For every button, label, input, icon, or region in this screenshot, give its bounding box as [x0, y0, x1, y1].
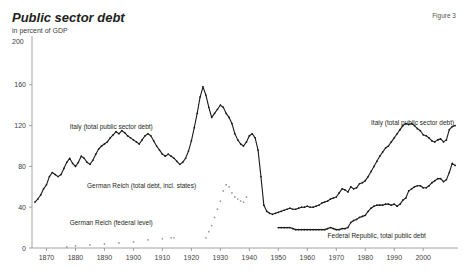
data-point — [327, 200, 329, 202]
data-point — [138, 143, 140, 145]
data-point — [89, 164, 91, 166]
data-point — [283, 227, 285, 229]
data-point — [214, 113, 216, 115]
data-point — [301, 229, 303, 231]
data-point — [411, 188, 413, 190]
data-point — [75, 166, 77, 168]
data-point — [367, 210, 369, 212]
data-point — [454, 125, 456, 127]
data-point — [182, 161, 184, 163]
data-point — [292, 228, 294, 230]
data-point — [130, 137, 132, 139]
data-point — [298, 207, 300, 209]
data-point — [356, 187, 358, 189]
data-point — [222, 190, 224, 192]
data-point — [217, 108, 219, 110]
data-point — [443, 141, 445, 143]
data-point — [396, 133, 398, 135]
data-point — [275, 212, 277, 214]
data-point — [367, 176, 369, 178]
data-point — [390, 141, 392, 143]
data-point — [222, 106, 224, 108]
data-point — [60, 174, 62, 176]
data-point — [34, 201, 36, 203]
data-point — [167, 153, 169, 155]
data-point — [269, 212, 271, 214]
series-1 — [205, 184, 247, 239]
x-tick-label: 1900 — [126, 254, 142, 261]
data-point — [254, 137, 256, 139]
data-point — [417, 128, 419, 130]
data-point — [324, 229, 326, 231]
data-point — [382, 204, 384, 206]
data-point — [104, 243, 106, 245]
data-point — [124, 132, 126, 134]
data-point — [324, 201, 326, 203]
data-point — [83, 157, 85, 159]
data-point — [176, 160, 178, 162]
data-point — [379, 204, 381, 206]
data-point — [173, 157, 175, 159]
data-point — [422, 134, 424, 136]
data-point — [127, 135, 129, 137]
data-point — [393, 203, 395, 205]
data-point — [327, 228, 329, 230]
data-point — [66, 246, 68, 248]
data-point — [362, 216, 364, 218]
series-3 — [277, 162, 455, 230]
data-point — [104, 143, 106, 145]
data-point — [312, 206, 314, 208]
series-annotation: Federal Republic, total public debt — [328, 232, 426, 239]
data-point — [225, 113, 227, 115]
data-point — [437, 139, 439, 141]
data-point — [135, 141, 137, 143]
data-point — [211, 117, 213, 119]
data-point — [341, 228, 343, 230]
data-point — [240, 200, 242, 202]
data-point — [63, 168, 65, 170]
data-point — [78, 161, 80, 163]
y-tick-label: 120 — [14, 122, 26, 129]
data-point — [57, 176, 59, 178]
data-point — [417, 185, 419, 187]
data-point — [338, 192, 340, 194]
data-point — [379, 155, 381, 157]
data-point — [393, 137, 395, 139]
data-point — [350, 222, 352, 224]
data-point — [54, 174, 56, 176]
data-point — [390, 204, 392, 206]
series-0 — [34, 86, 456, 215]
data-point — [353, 188, 355, 190]
data-point — [446, 179, 448, 181]
x-tick-label: 1990 — [386, 254, 402, 261]
data-point — [333, 197, 335, 199]
series-2 — [66, 237, 175, 248]
data-point — [373, 205, 375, 207]
data-point — [428, 137, 430, 139]
data-point — [414, 186, 416, 188]
series-annotation: Italy (total public sector debt) — [70, 123, 153, 130]
data-point — [280, 227, 282, 229]
data-point — [431, 140, 433, 142]
data-point — [347, 191, 349, 193]
data-point — [193, 127, 195, 129]
data-point — [49, 176, 51, 178]
x-tick-label: 1880 — [68, 254, 84, 261]
data-point — [147, 239, 149, 241]
data-point — [121, 130, 123, 132]
data-point — [173, 237, 175, 239]
data-point — [446, 139, 448, 141]
x-tick-label: 1930 — [213, 254, 229, 261]
data-point — [350, 186, 352, 188]
data-point — [196, 113, 198, 115]
data-point — [188, 150, 190, 152]
data-point — [344, 189, 346, 191]
series-line — [35, 87, 455, 215]
data-point — [362, 182, 364, 184]
x-tick-label: 1940 — [242, 254, 258, 261]
data-point — [448, 172, 450, 174]
data-point — [315, 229, 317, 231]
data-point — [280, 210, 282, 212]
x-tick-label: 1920 — [184, 254, 200, 261]
data-point — [321, 202, 323, 204]
